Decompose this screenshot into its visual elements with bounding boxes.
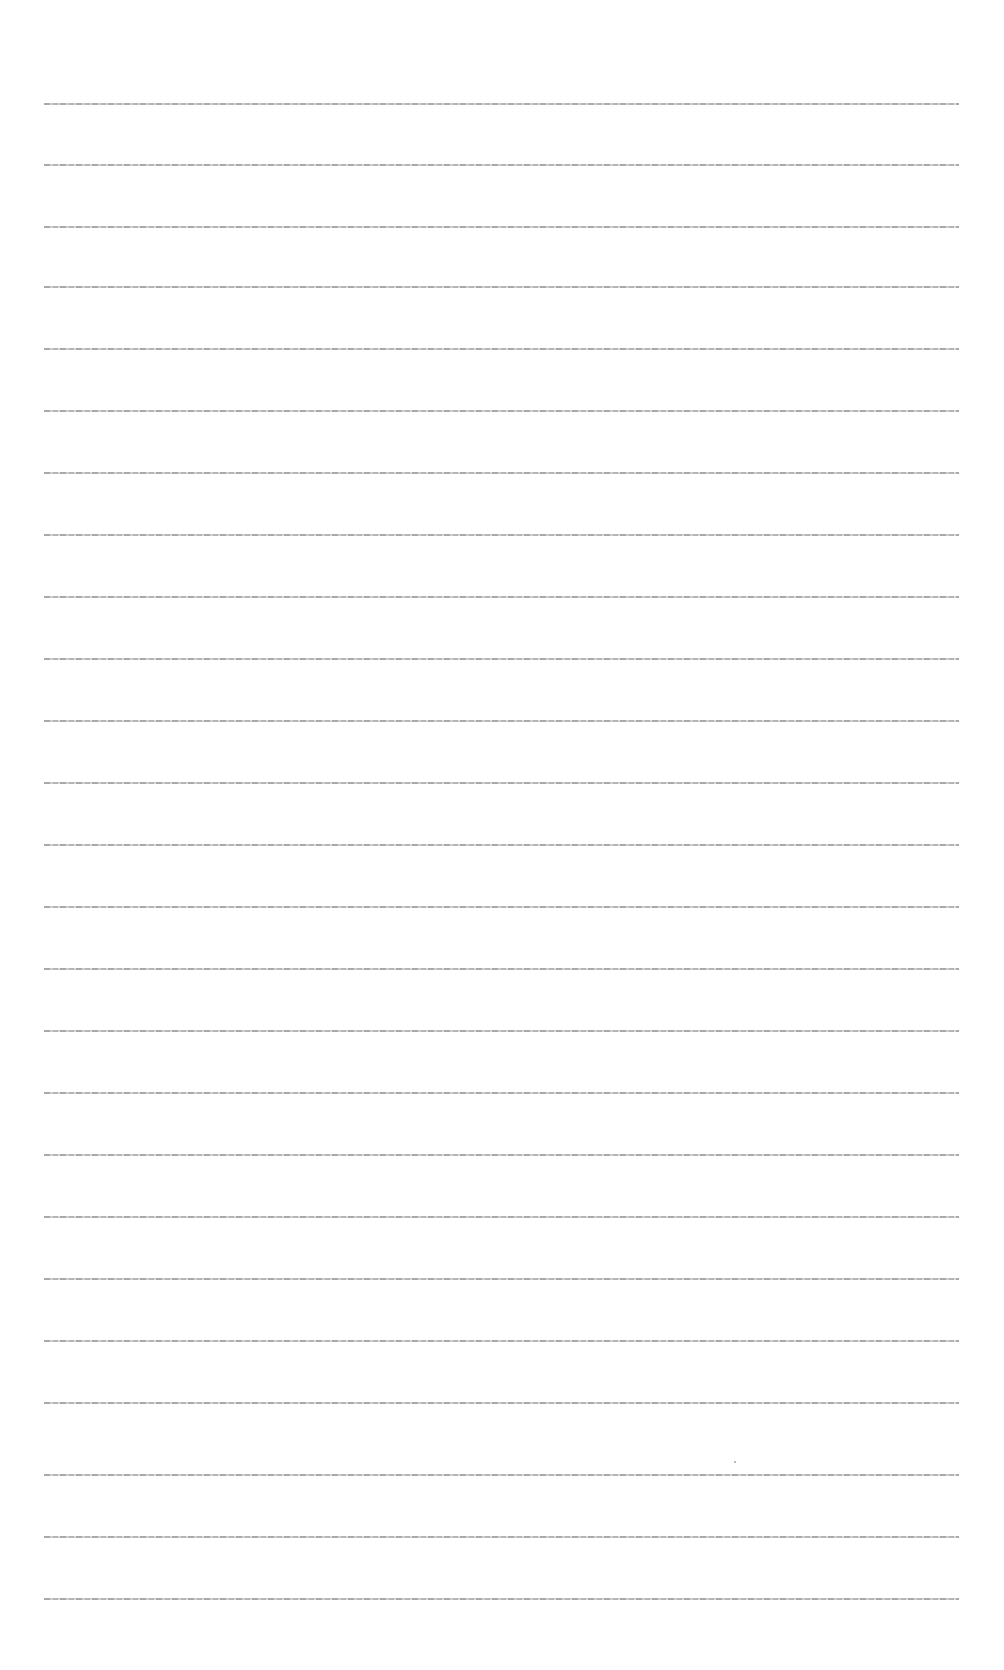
text-line <box>44 906 959 908</box>
text-line <box>44 968 959 970</box>
text-line <box>44 1030 959 1032</box>
text-line <box>44 1092 959 1094</box>
text-line <box>44 1402 959 1404</box>
text-line <box>44 782 959 784</box>
stray-mark <box>734 1461 736 1463</box>
text-line <box>44 103 959 105</box>
text-line <box>44 534 959 536</box>
text-line <box>44 226 959 228</box>
text-line <box>44 410 959 412</box>
text-line <box>44 1340 959 1342</box>
text-line <box>44 164 959 166</box>
text-line <box>44 720 959 722</box>
text-line <box>44 1154 959 1156</box>
text-line <box>44 1536 959 1538</box>
text-line <box>44 286 959 288</box>
text-line <box>44 1216 959 1218</box>
text-line <box>44 658 959 660</box>
text-line <box>44 348 959 350</box>
text-line <box>44 1278 959 1280</box>
text-line <box>44 1598 959 1600</box>
text-line <box>44 1474 959 1476</box>
text-line <box>44 844 959 846</box>
text-line <box>44 596 959 598</box>
text-line <box>44 472 959 474</box>
